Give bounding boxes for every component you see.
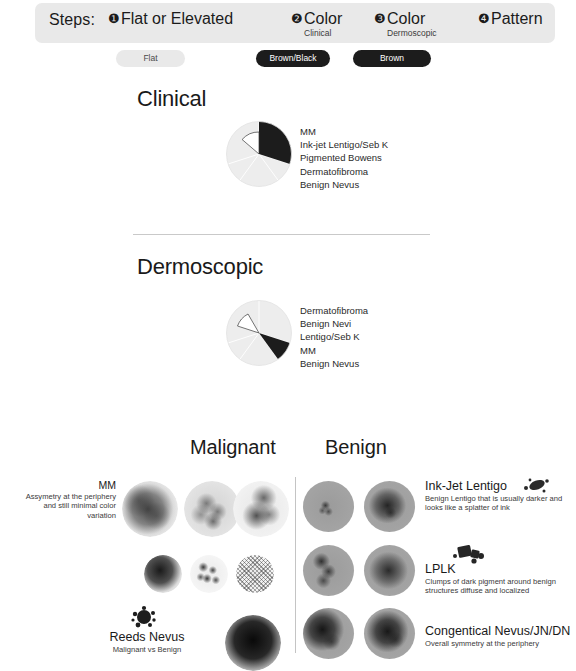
legend-item: Lentigo/Seb K	[300, 330, 368, 343]
section-divider	[133, 234, 430, 235]
caption-ink-jet-lentigo-body: Benign Lentigo that is usually darker an…	[425, 494, 565, 513]
legend-item: Pigmented Bowens	[300, 151, 388, 164]
legend-item: MM	[300, 125, 388, 138]
caption-lplk: LPLK Clumps of dark pigment around benig…	[425, 562, 570, 596]
caption-congenital-nevus-body: Overall symmetry at the periphery	[425, 639, 573, 648]
legend-item: Benign Nevi	[300, 317, 368, 330]
caption-congenital-nevus-title: Congentical Nevus/JN/DN	[425, 624, 573, 639]
pie-chart-clinical	[226, 121, 292, 187]
step-2-sublabel: Clinical	[304, 28, 342, 38]
caption-congenital-nevus: Congentical Nevus/JN/DN Overall symmetry…	[425, 624, 573, 648]
caption-mm-body: Assymetry at the periphery and still min…	[18, 492, 116, 520]
pill-flat[interactable]: Flat	[116, 50, 185, 67]
lesion-image-benign-2[interactable]	[364, 481, 415, 532]
step-3-label: Color	[387, 10, 425, 27]
step-item-2[interactable]: ❷Color Clinical	[291, 9, 342, 38]
pie-clinical-svg	[226, 121, 292, 187]
caption-reeds-nevus-body: Malignant vs Benign	[72, 645, 222, 654]
step-4-main: ❹Pattern	[478, 9, 543, 28]
lesion-image-malignant-6[interactable]	[236, 555, 274, 593]
pill-brown-black[interactable]: Brown/Black	[256, 50, 330, 67]
step-item-4[interactable]: ❹Pattern	[478, 9, 543, 28]
caption-mm: MM Assymetry at the periphery and still …	[18, 479, 116, 520]
caption-ink-jet-lentigo: Ink-Jet Lentigo Benign Lentigo that is u…	[425, 479, 565, 513]
caption-reeds-nevus: Reeds Nevus Malignant vs Benign	[72, 630, 222, 654]
caption-mm-title: MM	[18, 479, 116, 492]
legend-item: Benign Nevus	[300, 178, 388, 191]
lesion-image-reeds-nevus[interactable]	[225, 615, 281, 671]
step-4-label: Pattern	[491, 10, 543, 27]
caption-lplk-body: Clumps of dark pigment around benign str…	[425, 577, 570, 596]
lesion-image-malignant-2[interactable]	[184, 481, 240, 537]
step-1-label: Flat or Elevated	[121, 10, 233, 27]
legend-item: MM	[300, 344, 368, 357]
lesion-image-malignant-1[interactable]	[122, 481, 178, 537]
legend-item: Ink-jet Lentigo/Seb K	[300, 138, 388, 151]
pie-clinical-legend: MM Ink-jet Lentigo/Seb K Pigmented Bowen…	[300, 125, 388, 191]
lesion-image-benign-5[interactable]	[303, 608, 354, 659]
step-1-main: ❶Flat or Elevated	[108, 9, 233, 28]
legend-item: Dermatofibroma	[300, 304, 368, 317]
step-3-sublabel: Dermoscopic	[387, 28, 437, 38]
pie-chart-dermoscopic	[226, 300, 292, 366]
pie-dermoscopic-svg	[226, 300, 292, 366]
lesion-image-benign-1[interactable]	[303, 481, 354, 532]
lesion-image-benign-3[interactable]	[303, 545, 354, 596]
steps-label: Steps:	[49, 11, 95, 29]
lesion-image-benign-4[interactable]	[364, 545, 415, 596]
caption-lplk-title: LPLK	[425, 562, 570, 577]
step-2-number: ❷	[291, 11, 303, 26]
lesion-image-benign-6[interactable]	[364, 608, 415, 659]
gallery-header-malignant: Malignant	[190, 436, 276, 459]
legend-item: Benign Nevus	[300, 357, 368, 370]
section-title-dermoscopic: Dermoscopic	[137, 254, 263, 280]
ink-splatter-icon-reeds	[130, 605, 158, 629]
step-2-label: Color	[304, 10, 342, 27]
section-title-clinical: Clinical	[137, 86, 206, 112]
step-4-number: ❹	[478, 11, 490, 26]
step-3-number: ❸	[374, 11, 386, 26]
caption-ink-jet-lentigo-title: Ink-Jet Lentigo	[425, 479, 565, 494]
step-3-main: ❸Color	[374, 9, 437, 28]
pie-dermoscopic-legend: Dermatofibroma Benign Nevi Lentigo/Seb K…	[300, 304, 368, 370]
step-item-3[interactable]: ❸Color Dermoscopic	[374, 9, 437, 38]
lesion-image-malignant-4[interactable]	[144, 555, 182, 593]
legend-item: Dermatofibroma	[300, 165, 388, 178]
step-2-main: ❷Color	[291, 9, 342, 28]
pill-brown[interactable]: Brown	[353, 50, 431, 67]
lesion-image-malignant-5[interactable]	[190, 555, 228, 593]
gallery-header-benign: Benign	[325, 436, 387, 459]
caption-reeds-nevus-title: Reeds Nevus	[72, 630, 222, 645]
steps-bar: Steps: ❶Flat or Elevated ❷Color Clinical…	[35, 3, 555, 43]
lesion-image-malignant-3[interactable]	[233, 481, 289, 537]
gallery-column-divider	[295, 477, 296, 653]
step-item-1[interactable]: ❶Flat or Elevated	[108, 9, 233, 28]
step-1-number: ❶	[108, 11, 120, 26]
